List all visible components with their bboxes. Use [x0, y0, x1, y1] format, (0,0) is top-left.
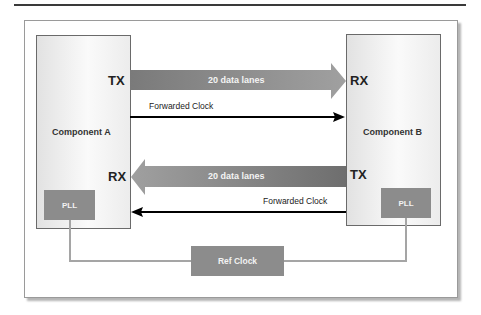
clock-a-to-b-label: Forwarded Clock — [149, 101, 213, 111]
lanes-a-to-b-label: 20 data lanes — [208, 75, 265, 85]
ref-clock-line-a — [70, 220, 191, 261]
ref-clock-box: Ref Clock — [191, 246, 284, 276]
ref-clock-line-b — [284, 218, 406, 261]
clock-b-to-a-label: Forwarded Clock — [263, 196, 327, 206]
lanes-b-to-a-label: 20 data lanes — [208, 171, 265, 181]
